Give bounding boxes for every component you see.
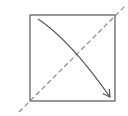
curved-arrow (38, 19, 110, 97)
diagram-canvas (0, 0, 128, 116)
diagram-svg (0, 0, 128, 116)
